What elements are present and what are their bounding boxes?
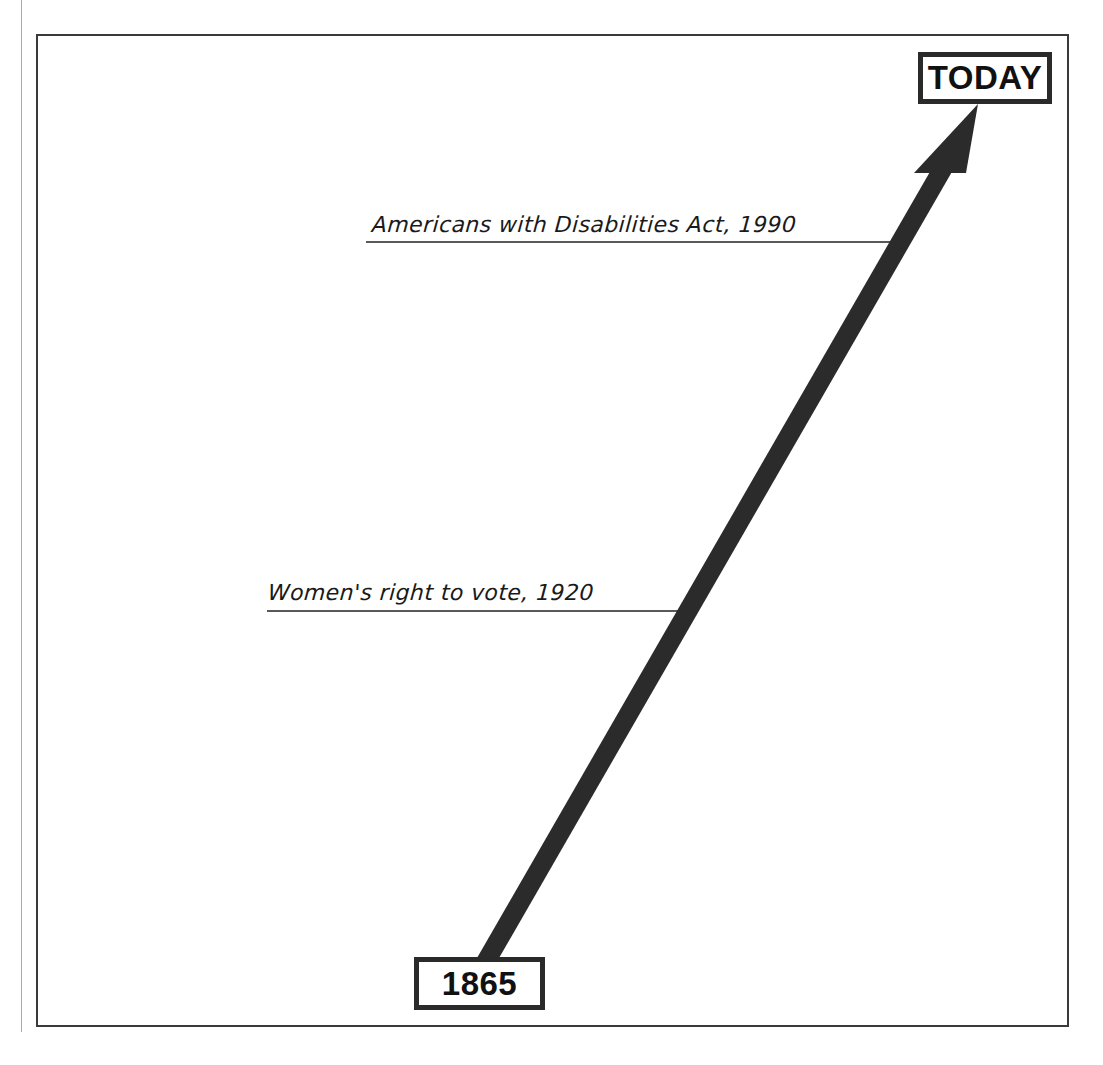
- timeline-arrow-shaft: [477, 170, 953, 958]
- start-label-box: 1865: [414, 957, 545, 1010]
- end-label-text: TODAY: [928, 59, 1042, 97]
- event-label-womens-vote: Women's right to vote, 1920: [267, 580, 595, 605]
- timeline-arrow-head: [914, 104, 978, 173]
- end-label-box: TODAY: [918, 52, 1052, 104]
- timeline-diagram: [0, 0, 1103, 1065]
- start-label-text: 1865: [442, 965, 517, 1003]
- event-label-ada: Americans with Disabilities Act, 1990: [371, 212, 797, 237]
